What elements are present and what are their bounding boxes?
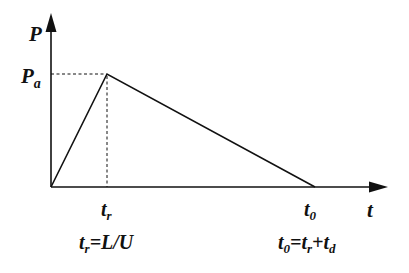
x-axis [51,182,388,193]
rise-time-label: tr [101,198,113,223]
x-axis-label: t [367,198,374,222]
end-time-label: t0 [304,198,317,223]
y-axis [46,13,57,187]
end-time-equation: t0=tr+td [278,231,336,256]
peak-value-label: Pa [20,64,41,91]
y-axis-arrowhead-icon [46,13,57,32]
x-axis-arrowhead-icon [369,182,388,193]
pulse-curve [51,74,315,187]
y-axis-label: P [28,22,42,46]
rise-time-equation: tr=L/U [79,231,135,256]
triangular-pulse-diagram: P Pa tr t0 t tr=L/U t0=tr+td [0,0,409,273]
